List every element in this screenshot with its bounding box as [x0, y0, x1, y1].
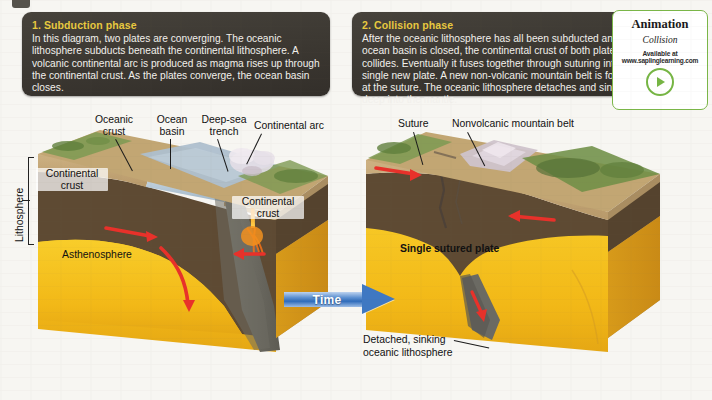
label-continental-crust-right: Continental crust: [232, 196, 304, 219]
label-suture: Suture: [398, 118, 429, 130]
panel-title-subduction: 1. Subduction phase: [32, 19, 320, 31]
label-deep-sea-trench: Deep-sea trench: [196, 114, 252, 137]
label-detached-sinking-oceanic-lithosphere: Detached, sinking oceanic lithosphere: [363, 334, 453, 359]
label-ocean-basin: Ocean basin: [150, 114, 194, 137]
label-oceanic-crust: Oceanic crust: [86, 114, 142, 137]
animation-title: Animation: [613, 17, 707, 32]
lithosphere-bracket-tick: [22, 200, 30, 201]
time-arrow: Time: [284, 284, 400, 314]
panel-body-subduction: In this diagram, two plates are convergi…: [32, 33, 320, 94]
panel-body-collision: After the oceanic lithosphere has all be…: [362, 33, 638, 107]
label-continental-arc: Continental arc: [254, 120, 324, 132]
label-nonvolcanic-mountain-belt: Nonvolcanic mountain belt: [452, 118, 574, 130]
play-triangle: [657, 77, 665, 87]
animation-url[interactable]: www.saplinglearning.com: [613, 57, 707, 64]
panel-title-collision: 2. Collision phase: [362, 19, 638, 31]
lithosphere-bracket: [28, 157, 34, 245]
time-arrow-head: [362, 284, 395, 314]
label-asthenosphere: Asthenosphere: [62, 249, 132, 261]
animation-card[interactable]: Animation Collision Available at www.sap…: [612, 10, 708, 110]
label-lithosphere: Lithosphere: [14, 188, 25, 242]
animation-available-label: Available at: [613, 50, 707, 57]
cropped-panel-fragment: [12, 0, 30, 8]
label-continental-crust-left: Continental crust: [36, 168, 108, 191]
caption-panel-subduction: 1. Subduction phase In this diagram, two…: [22, 12, 330, 96]
play-icon[interactable]: [646, 68, 674, 96]
time-arrow-label: Time: [296, 293, 358, 306]
animation-subtitle: Collision: [613, 35, 707, 45]
label-single-sutured-plate: Single sutured plate: [400, 243, 499, 255]
caption-panel-collision: 2. Collision phase After the oceanic lit…: [352, 12, 648, 96]
leader-ocean-basin: [170, 139, 171, 169]
subduction-block-diagram: [28, 124, 328, 364]
